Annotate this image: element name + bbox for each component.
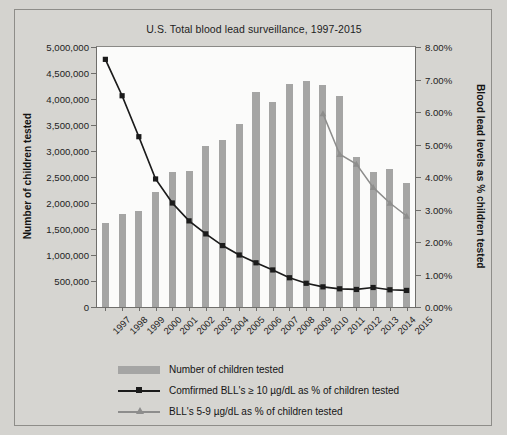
y-axis-label-left: 5,000,000 <box>46 42 89 53</box>
data-point-square <box>170 200 175 205</box>
y-axis-tick-right <box>415 307 421 308</box>
y-axis-label-right: 5.00% <box>425 139 452 150</box>
legend-item[interactable]: BLL's 5-9 µg/dL as % of children tested <box>15 401 493 422</box>
y-axis-tick-right <box>415 80 421 81</box>
y-axis-label-right: 3.00% <box>425 204 452 215</box>
plot-area: 0500,0001,000,0001,500,0002,000,0002,500… <box>96 46 416 308</box>
legend-label: Comfirmed BLL's ≥ 10 µg/dL as % of child… <box>169 385 399 396</box>
y-axis-label-left: 4,000,000 <box>46 94 89 105</box>
data-point-square <box>203 231 208 236</box>
x-axis-tick <box>256 307 257 311</box>
data-point-square <box>237 252 242 257</box>
x-axis-tick <box>340 307 341 311</box>
data-point-square <box>153 176 158 181</box>
chart-legend: Number of children testedComfirmed BLL's… <box>15 359 493 422</box>
legend-swatch-line-bll59 <box>118 406 160 417</box>
data-point-square <box>103 57 108 62</box>
y-axis-label-left: 2,500,000 <box>46 172 89 183</box>
data-point-square <box>387 287 392 292</box>
y-axis-label-left: 2,000,000 <box>46 198 89 209</box>
data-point-square <box>404 288 409 293</box>
y-axis-label-right: 7.00% <box>425 74 452 85</box>
x-axis-tick <box>206 307 207 311</box>
y-axis-tick-right <box>415 145 421 146</box>
y-axis-label-left: 1,500,000 <box>46 224 89 235</box>
y-axis-label-left: 1,000,000 <box>46 250 89 261</box>
data-point-square <box>220 243 225 248</box>
square-marker-icon <box>136 387 142 393</box>
x-axis-tick <box>189 307 190 311</box>
legend-swatch-bar <box>118 364 160 375</box>
data-point-square <box>186 218 191 223</box>
y-axis-label-left: 3,500,000 <box>46 120 89 131</box>
line-path <box>105 59 406 290</box>
y-axis-tick-right <box>415 112 421 113</box>
x-axis-tick <box>239 307 240 311</box>
x-axis-tick <box>139 307 140 311</box>
legend-label: BLL's 5-9 µg/dL as % of children tested <box>169 406 343 417</box>
y-axis-label-left: 4,500,000 <box>46 68 89 79</box>
triangle-marker-icon <box>136 407 144 414</box>
line-series <box>97 47 415 307</box>
x-axis-tick <box>156 307 157 311</box>
x-axis-tick <box>273 307 274 311</box>
data-point-square <box>136 134 141 139</box>
bar-swatch-icon <box>118 366 160 374</box>
x-axis-tick <box>223 307 224 311</box>
data-point-triangle <box>336 151 343 157</box>
x-axis-tick <box>373 307 374 311</box>
y-axis-label-right: 8.00% <box>425 42 452 53</box>
y-axis-tick-right <box>415 242 421 243</box>
x-axis-tick <box>407 307 408 311</box>
y-axis-tick-right <box>415 47 421 48</box>
x-axis-tick <box>105 307 106 311</box>
x-axis-tick <box>306 307 307 311</box>
chart-title: U.S. Total blood lead surveillance, 1997… <box>15 23 493 35</box>
y-axis-tick-right <box>415 177 421 178</box>
data-point-square <box>287 275 292 280</box>
data-point-square <box>120 93 125 98</box>
y-axis-label-left: 3,000,000 <box>46 146 89 157</box>
y-axis-title-left: Number of children tested <box>20 46 34 306</box>
data-point-triangle <box>320 110 327 116</box>
data-point-square <box>253 260 258 265</box>
data-point-square <box>354 287 359 292</box>
x-axis-tick <box>356 307 357 311</box>
y-axis-title-right: Blood lead levels as % children tested <box>473 46 487 306</box>
data-point-square <box>320 284 325 289</box>
x-axis-tick <box>289 307 290 311</box>
data-point-square <box>337 286 342 291</box>
y-axis-label-right: 0.00% <box>425 302 452 313</box>
y-axis-title-right-label: Blood lead levels as % children tested <box>475 84 486 269</box>
y-axis-label-right: 1.00% <box>425 269 452 280</box>
data-point-square <box>371 285 376 290</box>
y-axis-tick-right <box>415 210 421 211</box>
x-axis-tick <box>122 307 123 311</box>
y-axis-title-left-label: Number of children tested <box>22 113 33 239</box>
y-axis-label-right: 2.00% <box>425 237 452 248</box>
legend-label: Number of children tested <box>169 364 284 375</box>
x-axis-tick <box>390 307 391 311</box>
data-point-triangle <box>353 161 360 167</box>
data-point-square <box>304 281 309 286</box>
x-axis-label: 2015 <box>412 314 435 337</box>
x-axis-tick <box>172 307 173 311</box>
chart-frame: U.S. Total blood lead surveillance, 1997… <box>14 9 492 426</box>
y-axis-label-right: 4.00% <box>425 172 452 183</box>
line-path <box>323 114 407 216</box>
legend-swatch-line-confirmed <box>118 385 160 396</box>
x-axis-tick <box>323 307 324 311</box>
legend-item[interactable]: Comfirmed BLL's ≥ 10 µg/dL as % of child… <box>15 380 493 401</box>
y-axis-tick-left <box>91 307 97 308</box>
y-axis-label-left: 0 <box>84 302 89 313</box>
y-axis-label-left: 500,000 <box>54 276 89 287</box>
legend-item[interactable]: Number of children tested <box>15 359 493 380</box>
data-point-square <box>270 267 275 272</box>
y-axis-tick-right <box>415 275 421 276</box>
y-axis-label-right: 6.00% <box>425 107 452 118</box>
